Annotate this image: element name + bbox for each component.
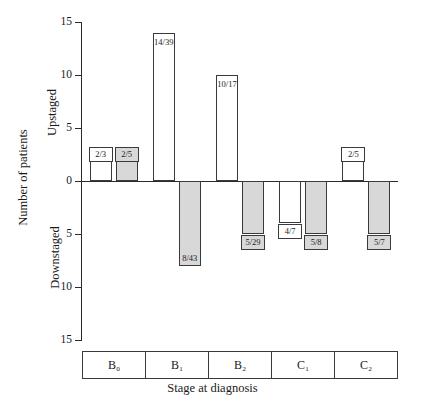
bar-value-label: 5/7 bbox=[367, 235, 391, 250]
y-tick-label: 0 bbox=[42, 174, 72, 186]
y-tick-label: 15 bbox=[42, 15, 72, 27]
y-tick-label: 5 bbox=[42, 121, 72, 133]
y-tick-mark bbox=[75, 287, 82, 288]
bar-B0-shaded bbox=[116, 160, 138, 181]
category-cell: B₁ bbox=[146, 352, 209, 378]
category-cell: C₂ bbox=[335, 352, 397, 378]
bar-C1-white bbox=[279, 181, 301, 223]
bar-C2-shaded bbox=[368, 181, 390, 234]
bar-value-label: 2/5 bbox=[115, 147, 139, 162]
bar-C2-white bbox=[342, 160, 364, 181]
y-tick-label: 10 bbox=[42, 280, 72, 292]
y-tick-label: 10 bbox=[42, 68, 72, 80]
bar-value-label: 5/8 bbox=[304, 235, 328, 250]
bar-value-label: 4/7 bbox=[278, 224, 302, 239]
bar-value-label: 2/5 bbox=[341, 147, 365, 162]
category-cell: C₁ bbox=[272, 352, 335, 378]
bar-B1-white bbox=[153, 33, 175, 181]
plot-area: 2/32/514/398/4310/175/294/75/82/55/7 bbox=[82, 22, 398, 340]
category-cell: B₀ bbox=[83, 352, 146, 378]
category-axis-strip: B₀B₁B₂C₁C₂ bbox=[82, 351, 398, 379]
bar-value-label: 2/3 bbox=[89, 147, 113, 162]
y-tick-mark bbox=[75, 75, 82, 76]
y-tick-mark bbox=[75, 22, 82, 23]
bar-value-label: 5/29 bbox=[241, 235, 265, 250]
y-tick-mark bbox=[75, 128, 82, 129]
bar-B2-shaded bbox=[242, 181, 264, 234]
y-tick-mark bbox=[75, 340, 82, 341]
bar-C1-shaded bbox=[305, 181, 327, 234]
y-tick-mark bbox=[75, 181, 82, 182]
bar-B0-white bbox=[90, 160, 112, 181]
bar-value-label: 14/39 bbox=[152, 36, 176, 49]
y-tick-label: 5 bbox=[42, 227, 72, 239]
y-axis-negative-direction-label: Downstaged bbox=[48, 188, 63, 328]
y-tick-mark bbox=[75, 234, 82, 235]
bar-value-label: 10/17 bbox=[215, 78, 239, 91]
bar-chart: Number of patients Upstaged Downstaged 1… bbox=[0, 0, 425, 410]
category-cell: B₂ bbox=[209, 352, 272, 378]
x-axis-title: Stage at diagnosis bbox=[0, 381, 425, 396]
y-tick-label: 15 bbox=[42, 333, 72, 345]
y-axis-title: Number of patients bbox=[16, 108, 31, 248]
bar-value-label: 8/43 bbox=[178, 252, 202, 265]
